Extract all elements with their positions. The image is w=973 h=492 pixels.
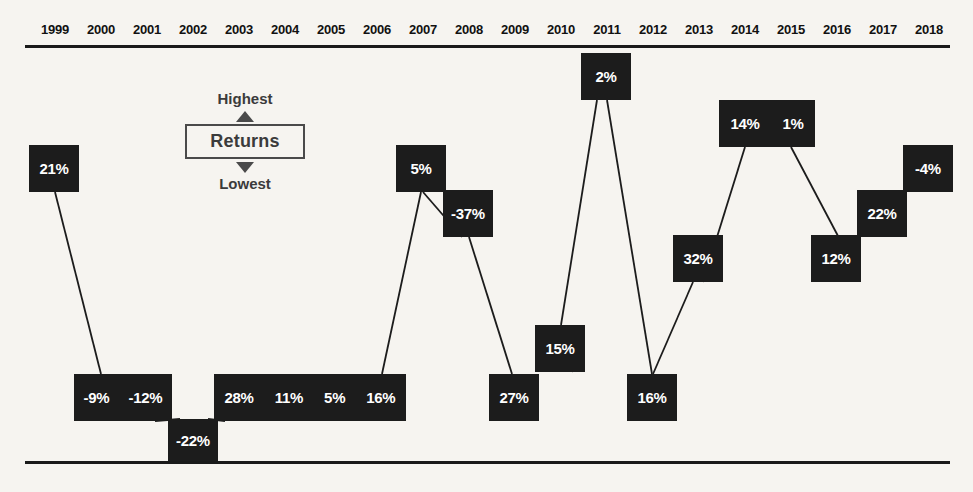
year-label-2005: 2005 (308, 22, 354, 37)
cell-2016[interactable]: 12% (811, 235, 861, 282)
conn-1999-2000 (55, 192, 101, 374)
conn-2012-2013 (653, 282, 693, 374)
cell-2003-2006[interactable]: 28%11%5%16% (214, 374, 406, 421)
conn-2006-2007 (382, 192, 421, 374)
year-label-2016: 2016 (814, 22, 860, 37)
legend-highest-label: Highest (185, 90, 305, 108)
return-value-2013: 32% (683, 250, 712, 267)
cell-2007[interactable]: 5% (396, 145, 446, 192)
footer-rule (25, 461, 950, 464)
cell-2002[interactable]: -22% (168, 419, 218, 462)
year-axis: 1999200020012002200320042005200620072008… (0, 22, 973, 42)
return-value-2003: 28% (225, 389, 254, 406)
return-value-2012: 16% (637, 389, 666, 406)
cell-2008[interactable]: -37% (443, 190, 493, 237)
year-label-2014: 2014 (722, 22, 768, 37)
cell-2009[interactable]: 27% (489, 374, 539, 421)
legend-title-box: Returns (185, 124, 305, 159)
returns-legend: Highest Returns Lowest (185, 90, 305, 193)
return-value-2002: -22% (176, 432, 210, 449)
triangle-up-icon (236, 111, 254, 122)
return-value-2004: 11% (275, 389, 303, 406)
year-label-1999: 1999 (32, 22, 78, 37)
return-value-2011: 2% (595, 68, 616, 85)
conn-2011-2012 (607, 100, 652, 374)
cell-2010[interactable]: 15% (535, 325, 585, 372)
header-rule (25, 45, 950, 48)
year-label-2013: 2013 (676, 22, 722, 37)
year-label-2012: 2012 (630, 22, 676, 37)
year-label-2010: 2010 (538, 22, 584, 37)
return-value-2001: -12% (129, 389, 163, 406)
year-label-2003: 2003 (216, 22, 262, 37)
cell-2017[interactable]: 22% (857, 190, 907, 237)
return-value-2005: 5% (324, 389, 345, 406)
conn-2008-2009 (469, 237, 512, 374)
cell-2014-2015[interactable]: 14%1% (719, 100, 815, 147)
year-label-2011: 2011 (584, 22, 630, 37)
triangle-down-icon (236, 162, 254, 173)
year-label-2007: 2007 (400, 22, 446, 37)
return-value-2008: -37% (451, 205, 485, 222)
cell-2012[interactable]: 16% (627, 374, 677, 421)
return-value-2006: 16% (366, 389, 395, 406)
return-value-2014: 14% (730, 115, 759, 132)
year-label-2004: 2004 (262, 22, 308, 37)
conn-2010-2011 (561, 100, 597, 325)
year-label-2002: 2002 (170, 22, 216, 37)
legend-title: Returns (191, 131, 299, 152)
return-value-2018: -4% (915, 160, 941, 177)
year-label-2000: 2000 (78, 22, 124, 37)
return-value-2007: 5% (410, 160, 431, 177)
year-label-2008: 2008 (446, 22, 492, 37)
return-value-2009: 27% (499, 389, 528, 406)
year-label-2015: 2015 (768, 22, 814, 37)
return-value-1999: 21% (39, 160, 68, 177)
cell-2000-2001[interactable]: -9%-12% (74, 374, 172, 421)
year-label-2001: 2001 (124, 22, 170, 37)
year-label-2009: 2009 (492, 22, 538, 37)
return-value-2015: 1% (782, 115, 803, 132)
cell-1999[interactable]: 21% (29, 145, 79, 192)
conn-2015-2016 (791, 147, 838, 236)
return-value-2000: -9% (84, 389, 110, 406)
cell-2018[interactable]: -4% (903, 145, 953, 192)
returns-chart-page: 1999200020012002200320042005200620072008… (0, 0, 973, 492)
legend-lowest-label: Lowest (185, 175, 305, 193)
return-value-2017: 22% (867, 205, 896, 222)
cell-2013[interactable]: 32% (673, 235, 723, 282)
year-label-2018: 2018 (906, 22, 952, 37)
year-label-2006: 2006 (354, 22, 400, 37)
cell-2011[interactable]: 2% (581, 53, 631, 100)
return-value-2016: 12% (821, 250, 850, 267)
year-label-2017: 2017 (860, 22, 906, 37)
return-value-2010: 15% (545, 340, 574, 357)
